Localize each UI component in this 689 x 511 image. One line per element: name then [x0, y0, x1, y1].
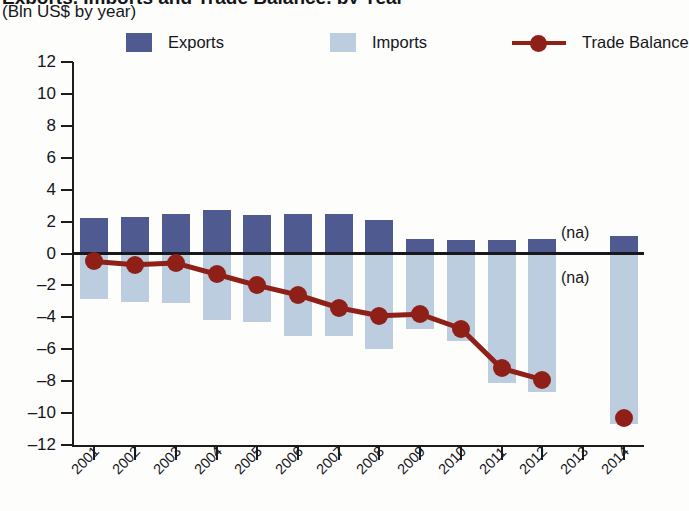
trade-balance-marker: [615, 409, 633, 427]
y-axis-tick-label: –8: [10, 372, 56, 389]
y-axis-tick: [61, 412, 73, 414]
bar-exports: [80, 218, 108, 253]
trade-balance-marker: [452, 320, 470, 338]
bar-exports: [162, 214, 190, 253]
y-axis-tick: [61, 284, 73, 286]
x-axis-tick-label: 2010: [435, 443, 469, 477]
trade-balance-marker: [126, 256, 144, 274]
trade-balance-marker: [167, 254, 185, 272]
x-axis-tick-label: 2003: [150, 443, 184, 477]
trade-balance-marker: [533, 371, 551, 389]
x-axis-tick-label: 2011: [476, 444, 509, 477]
x-axis-tick-label: 2002: [109, 443, 143, 477]
legend-label-trade-balance: Trade Balance: [582, 33, 689, 52]
imports-swatch-icon: [330, 33, 356, 52]
bar-exports: [243, 215, 271, 253]
y-axis-tick: [61, 93, 73, 95]
x-axis-tick-label: 2007: [313, 443, 347, 477]
y-axis-tick-label: 10: [10, 85, 56, 102]
y-axis-tick: [61, 444, 73, 446]
y-axis-tick: [61, 157, 73, 159]
x-axis-tick-label: 2014: [598, 443, 632, 477]
bar-exports: [203, 210, 231, 254]
x-axis-tick-label: 2008: [353, 443, 387, 477]
x-axis-tick-label: 2013: [557, 443, 591, 477]
y-axis-tick-label: –12: [10, 436, 56, 453]
bar-imports: [365, 254, 393, 350]
bar-exports: [284, 214, 312, 253]
x-axis-tick-label: 2009: [394, 443, 428, 477]
y-axis-tick: [61, 125, 73, 127]
y-axis-tick-label: 2: [10, 213, 56, 230]
x-axis-tick-label: 2005: [231, 443, 265, 477]
y-axis-labels: 121086420–2–4–6–8–10–12: [0, 0, 56, 511]
trade-balance-line-marker-icon: [512, 33, 566, 52]
y-axis-tick-label: 4: [10, 181, 56, 198]
y-axis-tick-label: –4: [10, 308, 56, 325]
x-axis-tick-label: 2012: [516, 443, 550, 477]
na-label: (na): [561, 224, 589, 242]
x-axis-tick-label: 2004: [191, 443, 225, 477]
y-axis-tick-label: 12: [10, 53, 56, 70]
trade-balance-marker: [289, 286, 307, 304]
chart-legend: Exports Imports Trade Balance: [126, 30, 646, 54]
y-axis-tick: [61, 61, 73, 63]
legend-item-trade-balance: Trade Balance: [512, 30, 689, 54]
y-axis-tick: [61, 380, 73, 382]
x-axis-line: [72, 445, 644, 447]
trade-balance-marker: [493, 359, 511, 377]
x-axis-tick-label: 2001: [68, 443, 102, 477]
trade-balance-marker: [208, 265, 226, 283]
trade-balance-marker: [370, 307, 388, 325]
bar-exports: [365, 220, 393, 254]
y-axis-tick-label: 6: [10, 149, 56, 166]
exports-swatch-icon: [126, 33, 152, 52]
legend-item-imports: Imports: [330, 30, 427, 54]
bar-imports: [610, 254, 638, 425]
bar-exports: [610, 236, 638, 254]
y-axis-tick-label: –2: [10, 276, 56, 293]
y-axis-tick: [61, 221, 73, 223]
y-axis-tick: [61, 316, 73, 318]
legend-item-exports: Exports: [126, 30, 224, 54]
x-axis-tick-label: 2006: [272, 443, 306, 477]
bar-imports: [325, 254, 353, 337]
y-axis-tick-label: –6: [10, 340, 56, 357]
bar-imports: [203, 254, 231, 320]
legend-label-exports: Exports: [168, 33, 224, 52]
y-axis-tick-label: –10: [10, 404, 56, 421]
na-label: (na): [561, 269, 589, 287]
trade-balance-marker: [330, 299, 348, 317]
bar-exports: [325, 214, 353, 253]
zero-baseline: [72, 252, 644, 255]
y-axis-tick: [61, 348, 73, 350]
y-axis-tick: [61, 189, 73, 191]
y-axis-tick-label: 0: [10, 245, 56, 262]
y-axis-tick-label: 8: [10, 117, 56, 134]
legend-label-imports: Imports: [372, 33, 427, 52]
bar-exports: [121, 217, 149, 254]
